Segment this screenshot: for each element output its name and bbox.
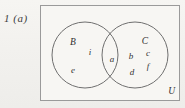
set-label-c: C <box>142 36 148 46</box>
element-d: d <box>130 67 135 77</box>
element-b: b <box>129 51 134 61</box>
element-a: a <box>110 54 115 64</box>
venn-circles <box>40 5 180 101</box>
question-number-label: 1 (a) <box>4 12 28 24</box>
element-i: i <box>89 47 92 57</box>
venn-diagram-figure: 1 (a) U B C i e a b c d f <box>0 0 185 108</box>
element-c: c <box>146 48 150 58</box>
element-f: f <box>147 61 150 71</box>
element-e: e <box>71 65 75 75</box>
circle-set-b <box>52 22 118 88</box>
set-label-b: B <box>70 37 76 47</box>
